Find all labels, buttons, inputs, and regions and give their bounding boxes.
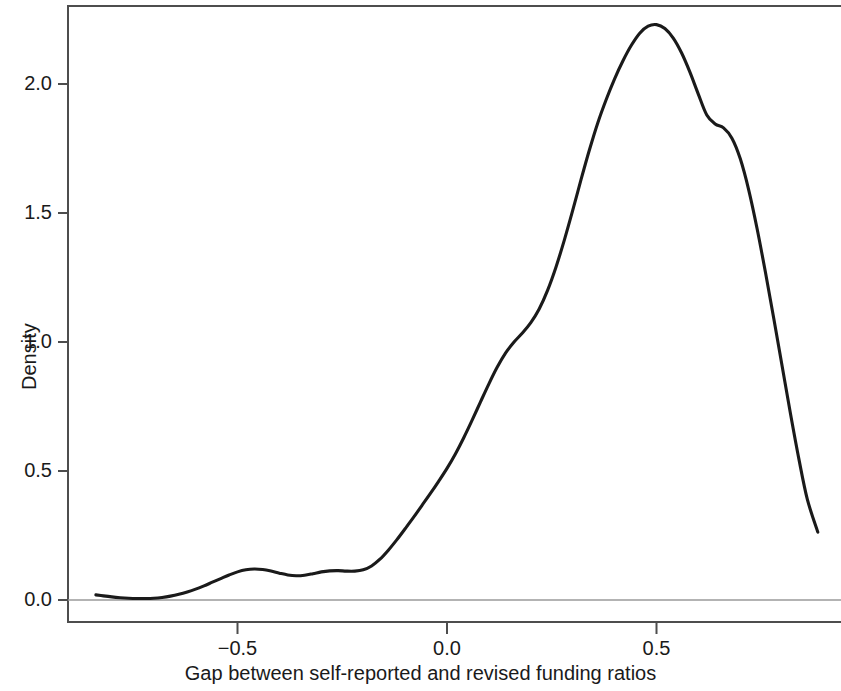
y-axis-title: Density [18, 323, 41, 390]
x-tick-label: 0.5 [607, 637, 707, 660]
y-axis-tick-marks [58, 84, 68, 600]
y-tick-label: 2.0 [0, 72, 52, 95]
density-plot-figure: 0.00.51.01.52.0 −0.50.00.5 Density Gap b… [0, 0, 841, 691]
chart-canvas [0, 0, 841, 691]
plot-frame [68, 6, 841, 622]
x-axis-title: Gap between self-reported and revised fu… [0, 662, 841, 685]
density-curve [96, 25, 818, 599]
y-tick-label: 0.0 [0, 588, 52, 611]
x-tick-label: −0.5 [188, 637, 288, 660]
x-tick-label: 0.0 [397, 637, 497, 660]
y-tick-label: 0.5 [0, 459, 52, 482]
x-axis-tick-marks [238, 622, 657, 634]
y-tick-label: 1.5 [0, 201, 52, 224]
